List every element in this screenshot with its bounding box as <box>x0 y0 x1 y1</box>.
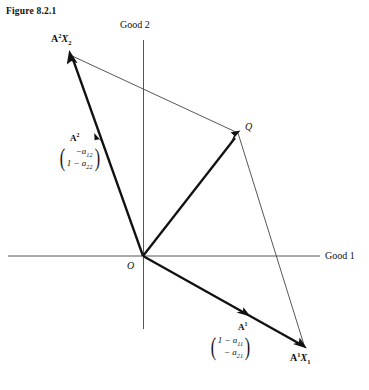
matrix-row: − a21 <box>224 347 243 359</box>
vector-line-a1 <box>143 256 300 344</box>
good-2-axis-label: Good 2 <box>120 20 150 30</box>
point-label-a1x1: A1X1 <box>290 352 310 366</box>
vector-diagram-canvas <box>0 0 369 390</box>
matrix-left-paren-a2: ( <box>60 147 65 169</box>
matrix-right-paren-a1: ) <box>245 336 250 358</box>
matrix-row: 1 − a11 <box>218 335 243 347</box>
matrix-row: −a12 <box>76 146 93 158</box>
matrix-rows-a2: −a12 1 − a22 <box>67 146 93 170</box>
vector-matrix-a2: ( −a12 1 − a22 ) <box>58 146 101 170</box>
vector-line-oq <box>143 138 235 256</box>
figure-container: Figure 8.2.1 Good 2 Good 1 O A2X2 A1X1 Q… <box>0 0 369 390</box>
matrix-right-paren-a2: ) <box>94 147 99 169</box>
figure-caption: Figure 8.2.1 <box>6 7 57 17</box>
matrix-rows-a1: 1 − a11 − a21 <box>218 335 243 359</box>
origin-label: O <box>127 261 134 271</box>
matrix-left-paren-a1: ( <box>211 336 216 358</box>
vector-label-a1: A1 <box>238 322 247 332</box>
vector-arrowhead-a1 <box>293 338 307 349</box>
vector-label-a2: A2 <box>70 133 79 143</box>
matrix-row: 1 − a22 <box>67 158 93 170</box>
good-1-axis-label: Good 1 <box>325 251 355 261</box>
point-label-q: Q <box>245 122 252 132</box>
vector-matrix-a1: ( 1 − a11 − a21 ) <box>209 335 252 359</box>
point-label-a2x2: A2X2 <box>51 33 71 47</box>
